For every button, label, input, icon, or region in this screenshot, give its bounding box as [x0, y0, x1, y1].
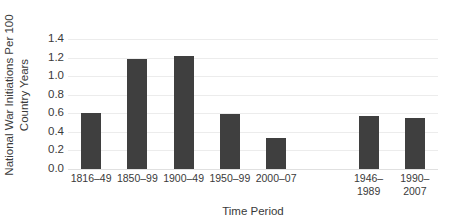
bar	[220, 114, 240, 169]
y-axis-tick-labels: 0.00.20.40.60.81.01.21.4	[32, 39, 64, 169]
y-tick-label: 1.0	[32, 70, 64, 82]
y-tick-label: 0.6	[32, 108, 64, 120]
bars-layer	[68, 39, 438, 169]
x-tick-label: 1816–49	[68, 172, 114, 185]
x-axis-title: Time Period	[68, 205, 438, 217]
gridline-0.0	[68, 169, 438, 170]
x-tick-label-line: 1816–49	[68, 172, 114, 185]
x-tick-label-line: 1946–	[346, 172, 392, 185]
y-axis-title-line-2: Country Years	[17, 14, 32, 175]
x-tick-label-line: 2007	[392, 185, 438, 198]
x-tick-label: 1946–1989	[346, 172, 392, 197]
x-tick-label-line: 1950–99	[207, 172, 253, 185]
bar	[266, 138, 286, 169]
x-tick-label-line: 1850–99	[114, 172, 160, 185]
x-tick-label-line: 1990–	[392, 172, 438, 185]
x-tick-label: 1950–99	[207, 172, 253, 185]
bar-chart: National War Initiations Per 100 Country…	[0, 0, 449, 224]
y-tick-label: 0.8	[32, 89, 64, 101]
y-tick-label: 1.4	[32, 33, 64, 45]
x-tick-label: 1900–49	[161, 172, 207, 185]
x-tick-label: 1990–2007	[392, 172, 438, 197]
x-tick-label: 2000–07	[253, 172, 299, 185]
bar	[127, 59, 147, 169]
x-tick-label-line: 2000–07	[253, 172, 299, 185]
x-tick-label-line: 1989	[346, 185, 392, 198]
x-axis-tick-labels: 1816–491850–991900–491950–992000–071946–…	[68, 172, 438, 206]
y-axis-title: National War Initiations Per 100 Country…	[0, 0, 34, 190]
y-tick-label: 1.2	[32, 52, 64, 64]
bar	[405, 118, 425, 169]
bar	[81, 113, 101, 169]
y-axis-title-line-1: National War Initiations Per 100	[2, 14, 17, 175]
bar	[174, 56, 194, 169]
y-tick-label: 0.2	[32, 145, 64, 157]
y-tick-label: 0.4	[32, 126, 64, 138]
x-tick-label: 1850–99	[114, 172, 160, 185]
x-tick-label-line: 1900–49	[161, 172, 207, 185]
bar	[359, 116, 379, 169]
y-tick-label: 0.0	[32, 163, 64, 175]
